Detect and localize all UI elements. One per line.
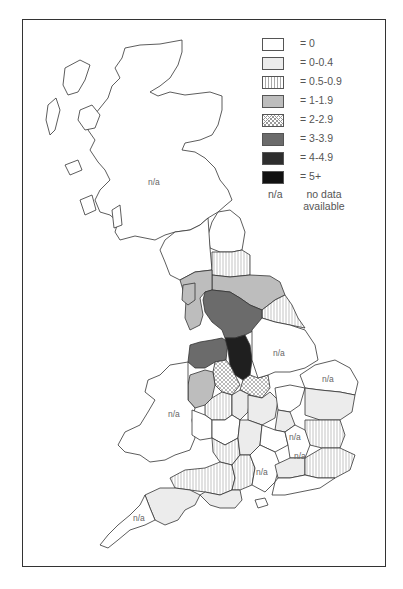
label-cornwall: n/a: [133, 513, 145, 523]
label-berkshire: n/a: [294, 451, 306, 461]
legend-swatch-0.5-0.9: [262, 76, 284, 89]
legend-swatch-2-2.9: [262, 114, 284, 127]
legend-swatch-4-4.9: [262, 152, 284, 165]
legend-label: = 0.5-0.9: [300, 75, 342, 87]
legend-label: = 3-3.9: [300, 132, 333, 144]
legend-na-line2: available: [298, 200, 350, 212]
region-cornwall: [100, 495, 155, 548]
region-wiltshire: [232, 455, 255, 490]
region-northumberland: [208, 210, 245, 252]
island-lewis: [63, 60, 90, 95]
region-kent: [305, 448, 355, 478]
region-west-midlands: [232, 390, 250, 420]
label-wales: n/a: [168, 409, 180, 419]
legend-label: = 0: [300, 37, 315, 49]
island-wight: [255, 498, 268, 508]
region-lincolnshire: [252, 318, 318, 378]
region-warwickshire: [248, 392, 278, 425]
region-sussex: [272, 475, 335, 495]
legend-na-description: no data available: [298, 188, 350, 212]
island-islay: [80, 195, 96, 215]
legend-item-5: = 3-3.9: [262, 133, 382, 147]
label-scotland: n/a: [148, 177, 160, 187]
legend-item-7: = 5+: [262, 171, 382, 185]
legend-swatch-3-3.9: [262, 133, 284, 146]
legend-item-6: = 4-4.9: [262, 152, 382, 166]
label-lincolnshire: n/a: [273, 348, 285, 358]
legend-item-3: = 1-1.9: [262, 95, 382, 109]
legend-item-4: = 2-2.9: [262, 114, 382, 128]
legend-item-0: = 0: [262, 38, 382, 52]
region-essex: [305, 420, 345, 448]
region-durham: [212, 250, 250, 277]
label-norfolk: n/a: [322, 374, 334, 384]
legend-swatch-5plus: [262, 171, 284, 184]
region-cambridgeshire: [275, 385, 305, 412]
region-fylde: [182, 283, 195, 305]
region-scotland: [88, 40, 232, 240]
legend-item-1: = 0-0.4: [262, 57, 382, 71]
legend-swatch-0: [262, 38, 284, 51]
legend-label: = 5+: [300, 170, 321, 182]
legend-swatch-0-0.4: [262, 57, 284, 70]
label-beds-herts: n/a: [289, 432, 301, 442]
legend-item-2: = 0.5-0.9: [262, 76, 382, 90]
legend-label: = 0-0.4: [300, 56, 333, 68]
legend-na-key: n/a: [268, 188, 283, 200]
legend-label: = 1-1.9: [300, 94, 333, 106]
island-uist: [46, 98, 60, 135]
legend-label: = 4-4.9: [300, 151, 333, 163]
legend-label: = 2-2.9: [300, 113, 333, 125]
region-wales: [118, 362, 195, 462]
island-mull: [65, 160, 82, 175]
label-hampshire: n/a: [256, 467, 268, 477]
legend-na-line1: no data: [298, 188, 350, 200]
legend-swatch-1-1.9: [262, 95, 284, 108]
region-surrey: [275, 458, 305, 478]
